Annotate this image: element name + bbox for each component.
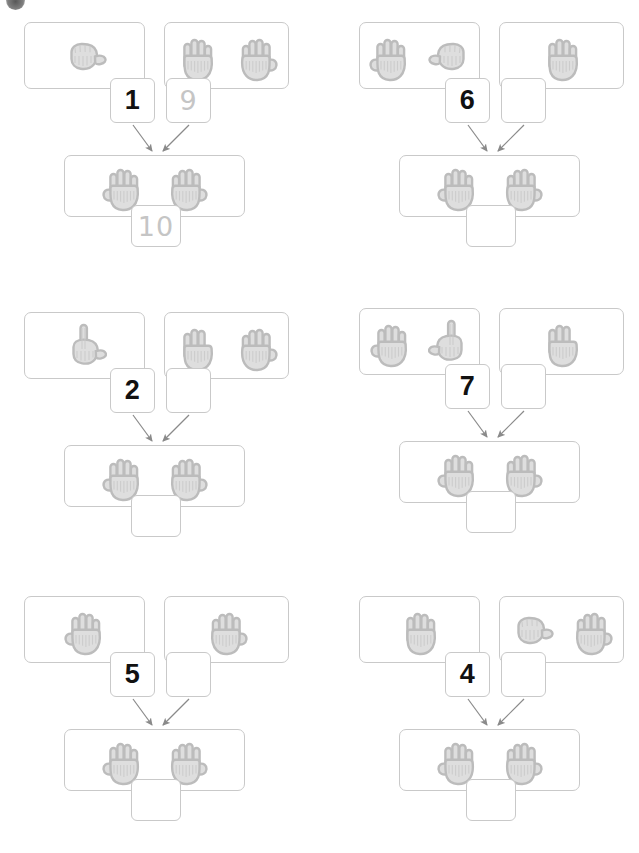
sum-answer-box[interactable] <box>466 779 516 821</box>
hand-fist-0-icon <box>509 610 555 650</box>
addend-left-answer-box[interactable]: 4 <box>445 652 490 697</box>
problem-3: 2 <box>18 312 318 572</box>
hand-open-4-icon <box>397 604 443 656</box>
addend-left-answer-box[interactable]: 6 <box>445 78 490 123</box>
hand-point-1-icon <box>63 321 107 371</box>
problem-2: 6 <box>353 22 639 282</box>
addend-left-value: 6 <box>460 87 476 114</box>
hand-open-5-icon <box>569 604 615 656</box>
sum-value: 10 <box>138 213 174 240</box>
addend-right-answer-box[interactable] <box>501 78 546 123</box>
hand-open-5-icon <box>204 604 250 656</box>
problem-6: 4 <box>353 596 639 853</box>
addend-left-answer-box[interactable]: 2 <box>110 368 155 413</box>
hand-fist-0-icon <box>62 36 108 76</box>
addend-left-value: 4 <box>460 661 476 688</box>
problem-4: 7 <box>353 308 639 568</box>
addend-right-answer-box[interactable] <box>501 652 546 697</box>
addend-left-answer-box[interactable]: 1 <box>110 78 155 123</box>
problem-5: 5 <box>18 596 318 853</box>
hand-open-4-icon <box>174 30 220 82</box>
addend-left-value: 7 <box>460 373 476 400</box>
sum-answer-box[interactable] <box>131 495 181 537</box>
addend-left-value: 1 <box>125 87 141 114</box>
problem-1: 1 9 10 <box>18 22 318 282</box>
hand-open-5-icon <box>367 30 413 82</box>
sum-answer-box[interactable] <box>131 779 181 821</box>
addend-left-answer-box[interactable]: 7 <box>445 364 490 409</box>
hand-open-5-icon <box>234 30 280 82</box>
addend-right-answer-box[interactable]: 9 <box>166 78 211 123</box>
addend-left-value: 2 <box>125 377 141 404</box>
addend-left-answer-box[interactable]: 5 <box>110 652 155 697</box>
addend-right-answer-box[interactable] <box>166 368 211 413</box>
sum-answer-box[interactable]: 10 <box>131 205 181 247</box>
hand-point-1-icon <box>428 317 472 367</box>
worksheet-sheet: 1 9 10 <box>0 0 639 853</box>
hand-fist-0-icon <box>427 36 473 76</box>
hand-open-3-icon <box>174 320 220 372</box>
addend-right-answer-box[interactable] <box>166 652 211 697</box>
sum-answer-box[interactable] <box>466 491 516 533</box>
hand-open-4-icon <box>539 30 585 82</box>
hand-open-5-icon <box>234 320 280 372</box>
hand-open-5-icon <box>368 316 414 368</box>
addend-right-value: 9 <box>179 87 197 114</box>
hand-open-5-icon <box>62 604 108 656</box>
addend-right-answer-box[interactable] <box>501 364 546 409</box>
hand-open-3-icon <box>539 316 585 368</box>
sum-answer-box[interactable] <box>466 205 516 247</box>
addend-left-value: 5 <box>125 661 141 688</box>
